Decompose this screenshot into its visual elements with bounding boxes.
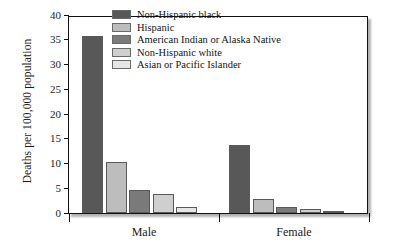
y-axis-tick-label: 30 xyxy=(50,59,61,70)
bar xyxy=(323,211,344,213)
bar xyxy=(229,145,250,213)
legend-item: Hispanic xyxy=(112,22,281,33)
legend-label: Non-Hispanic black xyxy=(137,9,221,20)
legend-swatch xyxy=(112,60,131,69)
y-axis-tick-label: 10 xyxy=(50,158,61,169)
bar xyxy=(253,199,274,213)
x-axis-group-separator xyxy=(69,213,70,222)
legend-swatch xyxy=(112,35,131,44)
x-axis-label-male: Male xyxy=(132,225,157,240)
y-axis-tick-mark xyxy=(64,15,69,16)
y-axis-title: Deaths per 100,000 population xyxy=(21,16,33,206)
legend-label: Hispanic xyxy=(137,22,174,33)
legend-item: Asian or Pacific Islander xyxy=(112,59,281,70)
bar xyxy=(82,36,103,213)
y-axis-tick-label: 35 xyxy=(50,34,61,45)
legend-label: American Indian or Alaska Native xyxy=(137,34,281,45)
legend-item: Non-Hispanic white xyxy=(112,47,281,58)
x-axis-group-separator xyxy=(369,213,370,222)
legend-item: Non-Hispanic black xyxy=(112,9,281,20)
x-axis-group-separator xyxy=(219,213,220,222)
bar xyxy=(129,190,150,213)
chart-legend: Non-Hispanic blackHispanicAmerican India… xyxy=(112,9,281,70)
legend-swatch xyxy=(112,10,131,19)
y-axis-tick-label: 20 xyxy=(50,108,61,119)
legend-label: Non-Hispanic white xyxy=(137,47,222,58)
bar xyxy=(153,194,174,213)
bar-chart-figure: Deaths per 100,000 population 0510152025… xyxy=(0,0,393,252)
y-axis-tick-label: 40 xyxy=(50,9,61,20)
bar xyxy=(176,207,197,213)
legend-swatch xyxy=(112,48,131,57)
y-axis-tick-label: 15 xyxy=(50,133,61,144)
bar xyxy=(300,209,321,213)
legend-item: American Indian or Alaska Native xyxy=(112,34,281,45)
y-axis-tick-label: 0 xyxy=(56,207,62,218)
bar xyxy=(106,162,127,213)
legend-swatch xyxy=(112,23,131,32)
legend-label: Asian or Pacific Islander xyxy=(137,59,241,70)
y-axis-tick-label: 25 xyxy=(50,83,61,94)
x-axis-label-female: Female xyxy=(276,225,311,240)
bar xyxy=(276,207,297,213)
y-axis-tick-label: 5 xyxy=(56,182,62,193)
